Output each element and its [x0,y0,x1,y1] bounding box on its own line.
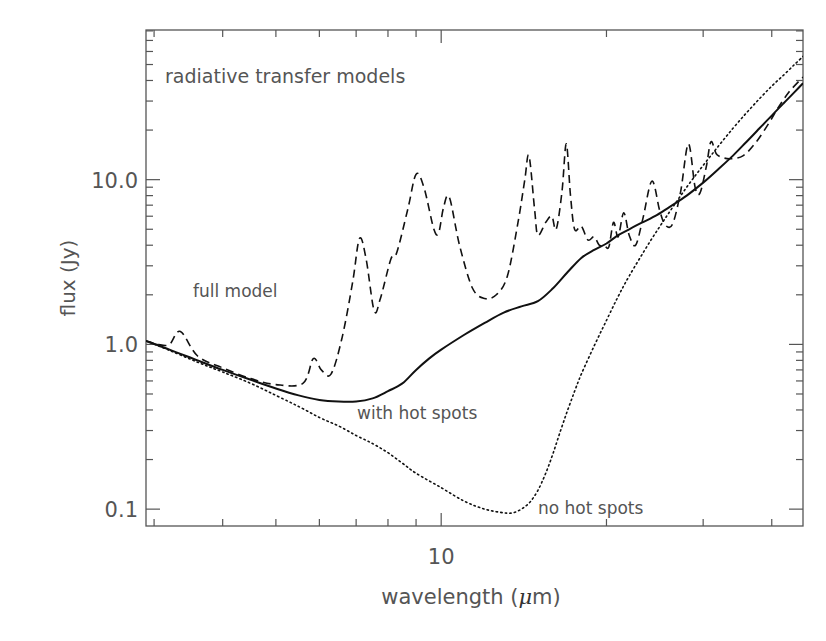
curve-with-hot-spots [146,83,803,402]
x-axis-label-suffix: m) [532,585,561,609]
x-axis-label-prefix: wavelength ( [381,585,518,609]
annotation-radiative-transfer-models: radiative transfer models [165,65,405,87]
annotation-full-model: full model [193,281,278,301]
x-axis-label-mu: μ [518,585,532,609]
annotation-no-hot-spots: no hot spots [538,498,644,518]
annotations: radiative transfer modelsfull modelwith … [165,65,644,518]
y-tick-label: 10.0 [91,169,138,193]
axis-ticks [146,30,803,526]
plot-frame [146,30,803,526]
flux-vs-wavelength-chart: 0.11.010.010 radiative transfer modelsfu… [0,0,826,641]
y-axis-label: flux (Jy) [56,240,80,317]
y-tick-label: 1.0 [105,333,138,357]
plot-border [146,30,803,526]
x-tick-label: 10 [428,545,455,569]
annotation-with-hot-spots: with hot spots [357,403,477,423]
curve-full-model [146,77,803,386]
x-axis-label: wavelength (μm) [381,585,561,609]
y-tick-label: 0.1 [105,498,138,522]
